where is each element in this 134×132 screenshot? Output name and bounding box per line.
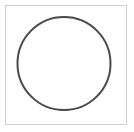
thumbnail-border — [5, 5, 127, 125]
thumbnail-canvas — [0, 0, 134, 132]
